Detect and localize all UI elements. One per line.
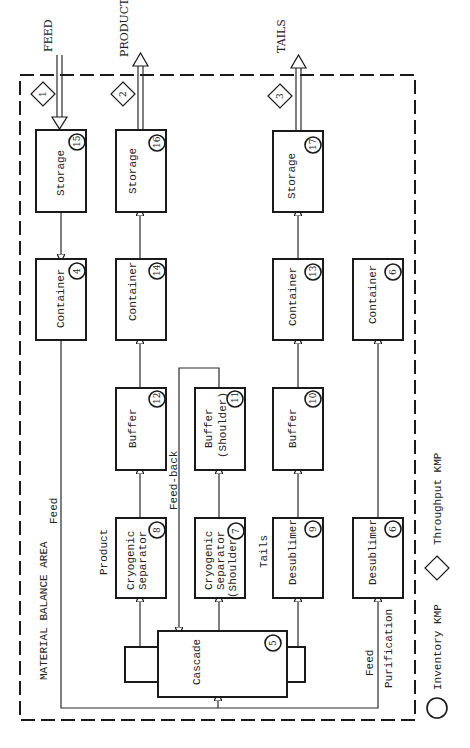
svg-text:13: 13 xyxy=(308,265,318,277)
svg-text:2: 2 xyxy=(118,91,128,97)
tails-outflow-arrow xyxy=(291,55,306,130)
buffer-tails: Buffer 10 xyxy=(273,388,323,470)
material-balance-area-label: MATERIAL BALANCE AREA xyxy=(38,541,50,680)
svg-text:Separator: Separator xyxy=(137,531,149,590)
svg-text:Cascade: Cascade xyxy=(191,639,203,685)
svg-text:Buffer: Buffer xyxy=(127,408,139,448)
inventory-kmp-legend-icon xyxy=(427,698,447,718)
feed-purification-label-line1: Feed xyxy=(364,650,376,676)
product-stream-label: Product xyxy=(98,529,110,575)
feed-label: FEED xyxy=(42,19,55,52)
svg-text:Cryogenic: Cryogenic xyxy=(125,531,137,590)
svg-text:4: 4 xyxy=(72,268,82,274)
container-feed: Container 4 xyxy=(36,259,86,340)
svg-text:Buffer: Buffer xyxy=(203,408,215,448)
svg-text:1: 1 xyxy=(38,91,48,97)
svg-text:3: 3 xyxy=(275,93,285,99)
svg-text:12: 12 xyxy=(152,393,162,404)
svg-text:10: 10 xyxy=(308,392,318,404)
container-purification: Container 6 xyxy=(353,259,403,340)
svg-text:15: 15 xyxy=(72,135,82,147)
svg-text:8: 8 xyxy=(152,527,162,533)
svg-text:Buffer: Buffer xyxy=(287,408,299,448)
container-product: Container 14 xyxy=(116,259,166,340)
container-tails: Container 13 xyxy=(273,259,323,340)
svg-text:6: 6 xyxy=(388,526,398,532)
feed-inflow-arrow xyxy=(52,55,67,129)
svg-text:Desublimer: Desublimer xyxy=(287,519,299,585)
desublimer-purification: Desublimer 6 xyxy=(353,518,403,598)
legend: Inventory KMP Throughput KMP xyxy=(425,452,449,718)
legend-throughput-label: Throughput KMP xyxy=(432,452,444,545)
cryogenic-separator-product: Cryogenic Separator 8 xyxy=(116,518,166,598)
feed-back-stream-label: Feed-back xyxy=(168,450,180,510)
storage-product: Storage 16 xyxy=(116,130,166,212)
svg-text:Container: Container xyxy=(367,265,379,324)
throughput-kmp-1: 1 xyxy=(31,82,55,106)
tails-label: TAILS xyxy=(275,19,288,53)
throughput-kmp-3: 3 xyxy=(268,84,292,108)
svg-text:Storage: Storage xyxy=(286,153,298,199)
svg-text:Container: Container xyxy=(55,269,67,328)
product-label: PRODUCT xyxy=(118,0,131,57)
cascade: Cascade 5 xyxy=(125,631,305,697)
tails-stream-label: Tails xyxy=(258,535,270,568)
cryogenic-separator-shoulder: Cryogenic Separator (Shoulder) 7 xyxy=(195,518,245,598)
svg-text:14: 14 xyxy=(152,264,162,276)
svg-text:Storage: Storage xyxy=(127,148,139,194)
throughput-kmp-2: 2 xyxy=(111,82,135,106)
storage-tails: Storage 17 xyxy=(273,131,323,212)
svg-text:7: 7 xyxy=(231,528,241,534)
feed-purification-label-line2: Purification xyxy=(383,609,395,688)
desublimer-tails: Desublimer 9 xyxy=(273,518,323,598)
svg-text:Container: Container xyxy=(127,262,139,321)
svg-text:Separator: Separator xyxy=(215,531,227,590)
product-outflow-arrow xyxy=(133,53,148,130)
svg-text:(Shoulder): (Shoulder) xyxy=(227,532,239,598)
cascade-right-tab xyxy=(287,647,305,682)
svg-text:6: 6 xyxy=(388,269,398,275)
throughput-kmp-legend-icon xyxy=(425,556,449,580)
buffer-shoulder: Buffer (Shoulder) 11 xyxy=(195,388,245,470)
buffer-product: Buffer 12 xyxy=(116,388,166,470)
svg-text:9: 9 xyxy=(308,526,318,532)
svg-text:5: 5 xyxy=(268,640,278,646)
legend-inventory-label: Inventory KMP xyxy=(432,604,444,690)
svg-text:Storage: Storage xyxy=(55,150,67,196)
svg-text:Cryogenic: Cryogenic xyxy=(203,531,215,590)
cascade-left-tab xyxy=(125,647,158,682)
storage-feed: Storage 15 xyxy=(36,130,86,212)
feed-stream-label: Feed xyxy=(48,498,60,524)
svg-text:11: 11 xyxy=(230,392,240,403)
material-balance-diagram: MATERIAL BALANCE AREA FEED 1 PRODUCT 2 T… xyxy=(0,0,470,748)
svg-text:Desublimer: Desublimer xyxy=(367,519,379,585)
svg-text:Container: Container xyxy=(287,267,299,326)
svg-text:16: 16 xyxy=(152,136,162,148)
svg-text:17: 17 xyxy=(308,138,318,150)
